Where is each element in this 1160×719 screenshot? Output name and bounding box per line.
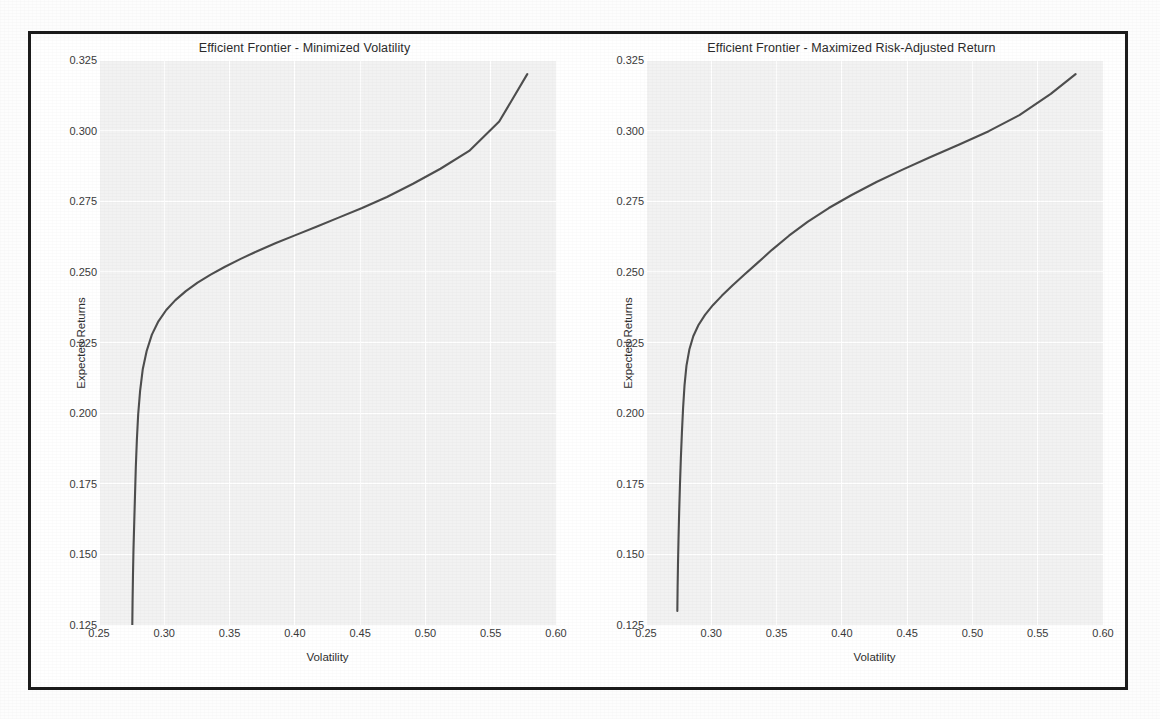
y-tick-label: 0.175 (582, 478, 644, 490)
x-tick-label: 0.25 (635, 627, 656, 639)
chart-panel-maximized-risk-adjusted-return: Efficient Frontier - Maximized Risk-Adju… (578, 34, 1125, 687)
x-axis-label-right: Volatility (646, 651, 1103, 663)
x-tick-label: 0.55 (480, 627, 501, 639)
y-tick-label: 0.250 (35, 266, 97, 278)
x-tick-label: 0.60 (1092, 627, 1113, 639)
x-tick-label: 0.25 (88, 627, 109, 639)
y-tick-label: 0.150 (582, 548, 644, 560)
frontier-plot-left (99, 60, 556, 625)
y-tick-label: 0.225 (35, 337, 97, 349)
plot-area-left (99, 60, 556, 625)
chart-title-right: Efficient Frontier - Maximized Risk-Adju… (578, 41, 1125, 55)
y-tick-label: 0.300 (582, 125, 644, 137)
y-axis-ticks-left: 0.3250.3000.2750.2500.2250.2000.1750.150… (31, 60, 97, 625)
y-tick-label: 0.250 (582, 266, 644, 278)
x-axis-label-left: Volatility (99, 651, 556, 663)
scanned-page: Efficient Frontier - Minimized Volatilit… (0, 0, 1160, 719)
x-tick-label: 0.35 (219, 627, 240, 639)
x-tick-label: 0.30 (154, 627, 175, 639)
x-tick-label: 0.60 (545, 627, 566, 639)
figure-frame: Efficient Frontier - Minimized Volatilit… (28, 31, 1128, 690)
y-axis-ticks-right: 0.3250.3000.2750.2500.2250.2000.1750.150… (578, 60, 644, 625)
panel-container: Efficient Frontier - Minimized Volatilit… (31, 34, 1125, 687)
x-tick-label: 0.40 (284, 627, 305, 639)
y-tick-label: 0.275 (35, 195, 97, 207)
y-tick-label: 0.325 (582, 54, 644, 66)
x-tick-label: 0.45 (349, 627, 370, 639)
efficient-frontier-curve (132, 74, 527, 625)
y-tick-label: 0.225 (582, 337, 644, 349)
y-tick-label: 0.200 (582, 407, 644, 419)
x-tick-label: 0.35 (766, 627, 787, 639)
x-tick-label: 0.50 (415, 627, 436, 639)
y-tick-label: 0.175 (35, 478, 97, 490)
x-tick-label: 0.50 (962, 627, 983, 639)
x-tick-label: 0.55 (1027, 627, 1048, 639)
y-tick-label: 0.325 (35, 54, 97, 66)
y-tick-label: 0.275 (582, 195, 644, 207)
y-tick-label: 0.150 (35, 548, 97, 560)
y-tick-label: 0.300 (35, 125, 97, 137)
plot-area-right (646, 60, 1103, 625)
frontier-plot-right (646, 60, 1103, 625)
chart-title-left: Efficient Frontier - Minimized Volatilit… (31, 41, 578, 55)
y-tick-label: 0.200 (35, 407, 97, 419)
chart-panel-minimized-volatility: Efficient Frontier - Minimized Volatilit… (31, 34, 578, 687)
x-axis-ticks-right: 0.250.300.350.400.450.500.550.60 (646, 627, 1103, 643)
x-tick-label: 0.30 (701, 627, 722, 639)
x-tick-label: 0.45 (896, 627, 917, 639)
x-tick-label: 0.40 (831, 627, 852, 639)
x-axis-ticks-left: 0.250.300.350.400.450.500.550.60 (99, 627, 556, 643)
